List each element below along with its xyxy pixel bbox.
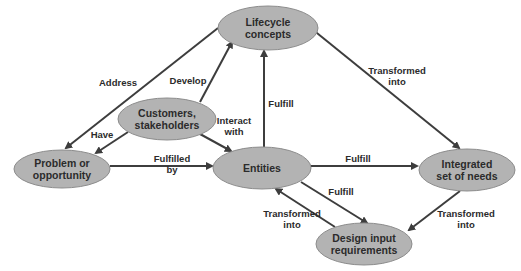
node-problem-label: Problem oropportunity [33,157,91,181]
edge-label-line: into [283,219,301,230]
node-entities-label: Entities [243,162,281,174]
node-label-line: stakeholders [135,119,200,131]
edge-label-line: Fulfilled [154,153,191,164]
edge-label-lifecycle-to-needs: Transformedinto [368,65,426,87]
node-label-line: Customers, [138,107,196,119]
edge-label-line: Address [99,77,137,88]
node-entities: Entities [213,147,311,189]
edge-label-line: Interact [217,115,252,126]
edge-label-customers-to-entities: Interactwith [217,115,252,137]
node-lifecycle: Lifecycleconcepts [218,6,318,50]
edge-label-line: Have [91,129,114,140]
edge-label-needs-to-design: Transformedinto [437,208,495,230]
node-label-line: requirements [331,244,398,256]
node-customers: Customers,stakeholders [118,98,216,140]
edge-label-line: Fulfill [345,153,370,164]
node-label-line: Integrated [442,158,493,170]
edge-label-line: into [457,219,475,230]
node-needs-label: Integratedset of needs [436,158,497,182]
node-label-line: opportunity [33,169,91,181]
node-needs: Integratedset of needs [419,149,515,191]
edge-label-line: with [224,126,244,137]
edge-labels-layer: AddressDevelopHaveInteractwithFulfilledb… [91,65,495,230]
concept-diagram: LifecycleconceptsCustomers,stakeholdersP… [0,0,521,271]
edge-label-customers-to-lifecycle: Develop [170,75,207,86]
node-customers-label: Customers,stakeholders [135,107,200,131]
edge-label-line: Develop [170,75,207,86]
node-design-label: Design inputrequirements [331,232,398,256]
edge-label-design-to-entities: Transformedinto [263,208,321,230]
node-label-line: Problem or [34,157,89,169]
node-label-line: set of needs [436,170,497,182]
node-label-line: Lifecycle [246,16,291,28]
node-label-line: Design input [332,232,396,244]
edge-label-line: Fulfill [268,98,293,109]
edge-label-line: Transformed [263,208,321,219]
edge-label-line: by [166,164,178,175]
edge-label-customers-to-problem: Have [91,129,114,140]
node-label-line: concepts [245,28,291,40]
edge-label-line: Transformed [368,65,426,76]
node-design: Design inputrequirements [316,223,412,265]
edge-label-problem-to-entities: Fulfilledby [154,153,191,175]
edge-label-entities-to-design: Fulfill [328,186,353,197]
node-lifecycle-label: Lifecycleconcepts [245,16,291,40]
edge-label-lifecycle-to-problem: Address [99,77,137,88]
edge-label-line: Transformed [437,208,495,219]
edge-label-line: into [388,76,406,87]
edge-label-entities-to-needs: Fulfill [345,153,370,164]
edge-label-line: Fulfill [328,186,353,197]
edge-customers-to-lifecycle-arrow [200,42,232,102]
edge-lifecycle-to-needs-arrow [312,29,459,148]
edge-label-entities-to-lifecycle: Fulfill [268,98,293,109]
node-problem: Problem oropportunity [14,150,110,188]
node-label-line: Entities [243,162,281,174]
